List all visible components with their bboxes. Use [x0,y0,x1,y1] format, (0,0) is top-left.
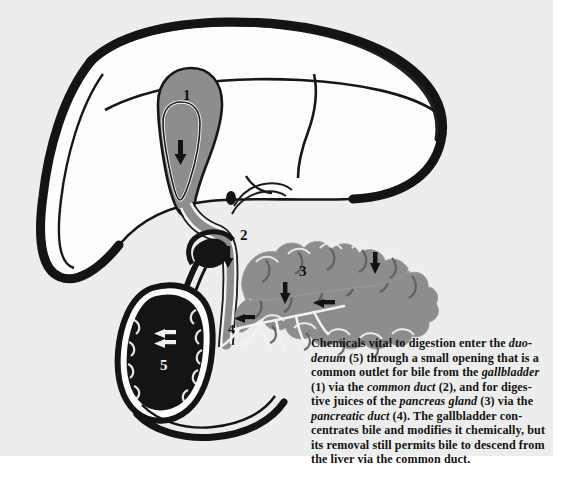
figure-caption: Chemicals vital to digestion enter the d… [311,336,551,467]
page-root: 1 2 3 4 5 Chemicals vital to digestion e… [0,0,578,482]
caption-line: denum (5) through a small opening that i… [311,351,551,366]
caption-text: (5) through a small opening that is a [346,351,539,365]
caption-emphasis: duo- [509,336,532,350]
caption-text: the liver via the common duct. [311,452,470,466]
caption-line: the liver via the common duct. [311,452,551,467]
caption-text: common outlet for bile from the [311,365,482,379]
caption-emphasis: gallbladder [482,365,540,379]
caption-line: common outlet for bile from the gallblad… [311,365,551,380]
caption-text: tive juices of the [311,394,400,408]
caption-emphasis: pancreas gland [400,394,478,408]
caption-text: (4). The gallbladder con- [389,409,522,423]
caption-emphasis: common duct [367,380,436,394]
caption-text: Chemicals vital to digestion enter the [311,336,509,350]
label-duodenum-5: 5 [160,358,168,373]
caption-line: centrates bile and modifies it chemicall… [311,423,551,438]
caption-line: tive juices of the pancreas gland (3) vi… [311,394,551,409]
caption-line: its removal still permits bile to descen… [311,438,551,453]
label-gallbladder-1: 1 [183,88,191,103]
label-pancreatic-duct-4: 4 [228,322,235,335]
label-pancreas-3: 3 [299,264,307,279]
caption-emphasis: denum [311,351,346,365]
caption-text: centrates bile and modifies it chemicall… [311,423,545,437]
caption-line: Chemicals vital to digestion enter the d… [311,336,551,351]
caption-text: (2), and for diges- [436,380,532,394]
caption-line: (1) via the common duct (2), and for dig… [311,380,551,395]
caption-text: (3) via the [477,394,533,408]
duct-junction-node [226,191,236,205]
caption-line: pancreatic duct (4). The gallbladder con… [311,409,551,424]
caption-text: its removal still permits bile to descen… [311,438,545,452]
caption-emphasis: pancreatic duct [311,409,389,423]
caption-text: (1) via the [311,380,367,394]
label-common-duct-2: 2 [240,228,248,243]
